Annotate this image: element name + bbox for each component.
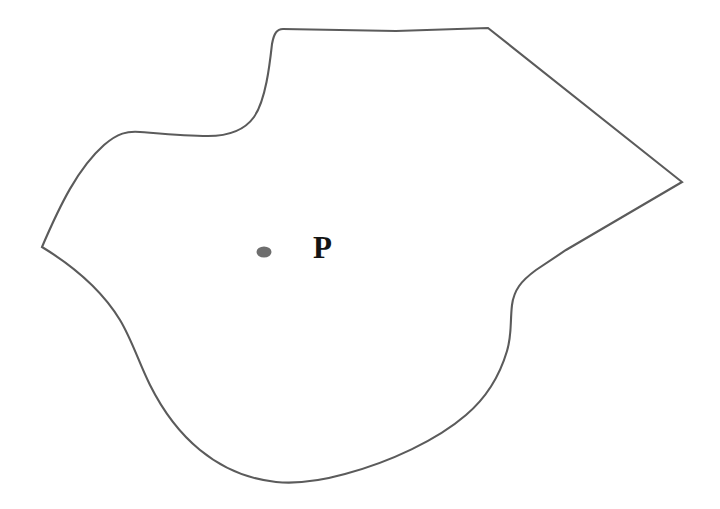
figure-canvas: P	[0, 0, 720, 509]
point-p-marker	[257, 247, 272, 258]
point-p-label: P	[313, 230, 332, 265]
